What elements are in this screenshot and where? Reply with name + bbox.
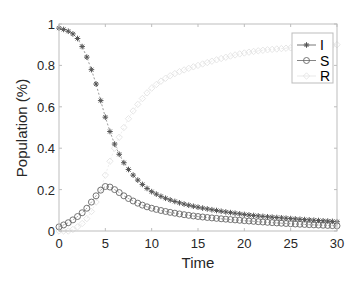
- asterisk-marker: [144, 186, 150, 192]
- asterisk-marker: [172, 199, 178, 205]
- y-tick-label: 0.4: [37, 141, 55, 156]
- asterisk-marker: [140, 182, 146, 188]
- legend-label: I: [320, 37, 324, 53]
- diamond-marker: [107, 158, 113, 164]
- x-tick-label: 25: [283, 236, 297, 251]
- y-tick-label: 0.2: [37, 183, 55, 198]
- x-axis-title: Time: [182, 254, 215, 271]
- asterisk-marker: [223, 209, 229, 215]
- asterisk-marker: [200, 205, 206, 211]
- asterisk-marker: [232, 210, 238, 216]
- asterisk-marker: [130, 172, 136, 178]
- asterisk-marker: [98, 98, 104, 104]
- x-tick-label: 10: [144, 236, 158, 251]
- x-tick-label: 5: [102, 236, 109, 251]
- asterisk-marker: [218, 208, 224, 214]
- legend-label: S: [320, 53, 329, 69]
- y-tick-label: 0.8: [37, 58, 55, 73]
- asterisk-marker: [79, 44, 85, 50]
- asterisk-marker: [84, 54, 90, 60]
- asterisk-marker: [304, 42, 310, 48]
- diamond-marker: [116, 134, 122, 140]
- asterisk-marker: [191, 203, 197, 209]
- asterisk-marker: [93, 81, 99, 87]
- asterisk-marker: [228, 210, 234, 216]
- diamond-marker: [102, 172, 108, 178]
- asterisk-marker: [214, 208, 220, 214]
- y-tick-label: 1: [48, 17, 55, 32]
- asterisk-marker: [181, 201, 187, 207]
- asterisk-marker: [204, 206, 210, 212]
- y-tick-label: 0.6: [37, 100, 55, 115]
- asterisk-marker: [209, 207, 215, 213]
- asterisk-marker: [177, 200, 183, 206]
- x-tick-label: 15: [191, 236, 205, 251]
- y-axis-title: Population (%): [13, 79, 30, 177]
- legend-label: R: [320, 68, 330, 84]
- asterisk-marker: [75, 36, 81, 42]
- x-tick-label: 0: [55, 236, 62, 251]
- asterisk-marker: [65, 28, 71, 34]
- asterisk-marker: [242, 212, 248, 218]
- asterisk-marker: [135, 177, 141, 183]
- x-tick-label: 20: [237, 236, 251, 251]
- diamond-marker: [121, 124, 127, 130]
- asterisk-marker: [107, 129, 113, 135]
- asterisk-marker: [70, 31, 76, 37]
- asterisk-marker: [116, 151, 122, 157]
- asterisk-marker: [186, 202, 192, 208]
- x-tick-label: 30: [330, 236, 344, 251]
- asterisk-marker: [89, 67, 95, 73]
- asterisk-marker: [195, 204, 201, 210]
- y-tick-label: 0: [48, 224, 55, 239]
- asterisk-marker: [112, 141, 118, 147]
- legend: ISR: [292, 33, 333, 84]
- circle-marker: [79, 210, 85, 216]
- asterisk-marker: [103, 114, 109, 120]
- asterisk-marker: [237, 211, 243, 217]
- sir-chart: 051015202530 00.20.40.60.81 Time Populat…: [0, 0, 360, 285]
- asterisk-marker: [121, 160, 127, 166]
- asterisk-marker: [126, 167, 132, 173]
